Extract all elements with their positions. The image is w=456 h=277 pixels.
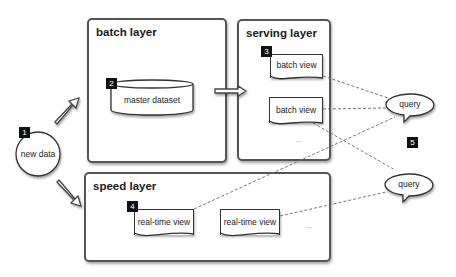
badge-1: 1: [19, 127, 30, 138]
batch-view-1: batch view: [270, 54, 323, 78]
batch-layer: batch layer: [87, 18, 227, 163]
badge-2: 2: [106, 78, 117, 89]
realtime-view-1-label: real-time view: [138, 217, 190, 227]
realtime-view-1: real-time view: [134, 209, 194, 235]
batch-layer-title: batch layer: [96, 26, 157, 38]
batch-view-1-label: batch view: [276, 60, 316, 70]
batch-view-2: batch view: [269, 97, 323, 123]
badge-5: 5: [407, 137, 418, 148]
badge-4: 4: [127, 201, 138, 212]
batch-view-2-label: batch view: [276, 105, 316, 115]
speed-layer-title: speed layer: [93, 180, 156, 192]
master-dataset-label: master dataset: [111, 95, 193, 105]
serving-more-indicator: ...: [296, 136, 302, 143]
query-2-label: query: [385, 179, 433, 189]
realtime-view-2-label: real-time view: [224, 217, 276, 227]
serving-layer: serving layer: [237, 19, 331, 161]
serving-layer-title: serving layer: [246, 27, 317, 39]
realtime-view-2: real-time view: [220, 209, 280, 235]
new-data-label: new data: [16, 149, 60, 159]
query-1-label: query: [386, 99, 434, 109]
speed-layer: speed layer: [84, 172, 331, 262]
badge-3: 3: [261, 46, 272, 57]
speed-more-indicator: ...: [306, 222, 312, 229]
